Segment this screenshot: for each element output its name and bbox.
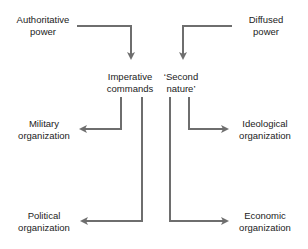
node-second-nature: ‘Second nature’ [158, 71, 204, 95]
arrow-authoritative-to-imperative [77, 26, 131, 58]
arrow-imperative-to-political [82, 97, 142, 221]
node-authoritative-power: Authoritative power [10, 14, 76, 38]
node-diffused-power: Diffused power [234, 14, 298, 38]
node-political-organization: Political organization [12, 210, 76, 234]
node-military-organization: Military organization [12, 118, 76, 142]
node-imperative-commands: Imperative commands [100, 71, 160, 95]
node-ideological-organization: Ideological organization [232, 118, 298, 142]
arrow-diffused-to-second-nature [183, 26, 232, 58]
node-economic-organization: Economic organization [232, 210, 298, 234]
arrow-imperative-to-military [81, 97, 121, 129]
arrow-second-nature-to-ideological [189, 97, 227, 129]
arrow-second-nature-to-economic [170, 97, 227, 221]
